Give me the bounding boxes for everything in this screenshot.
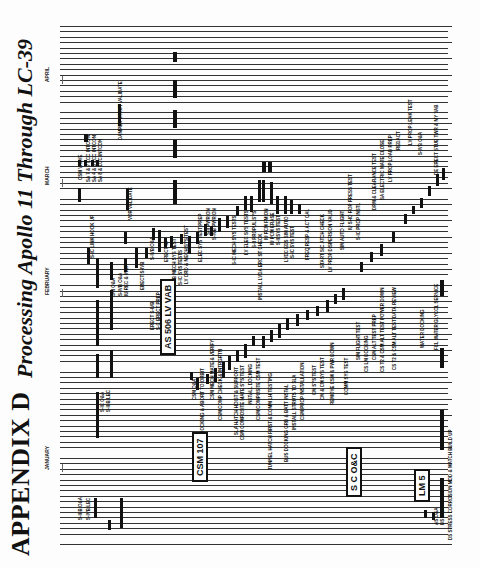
task-label: CM SYS TEST bbox=[312, 365, 317, 395]
task-label: ELEC SYS TEST PREP bbox=[198, 213, 203, 262]
task-bar bbox=[173, 110, 177, 128]
task-label: CS T2 & CSM ALT TEST POWER DOWN bbox=[380, 288, 385, 373]
task-bar bbox=[392, 232, 395, 242]
task-label: CSM PROP INSTALLATION bbox=[300, 362, 305, 420]
grid-line bbox=[60, 453, 448, 454]
grid-line bbox=[60, 534, 448, 535]
task-bar bbox=[96, 300, 99, 346]
grid-line bbox=[60, 307, 448, 308]
grid-line bbox=[60, 388, 448, 389]
month-tick bbox=[62, 464, 63, 472]
task-bar bbox=[244, 344, 247, 358]
task-label: S-IC O&A bbox=[100, 392, 105, 412]
task-label: S-II SYS TEST bbox=[276, 215, 281, 245]
task-label: S-IVB O&A bbox=[118, 273, 123, 296]
grid-line bbox=[60, 480, 452, 481]
task-label: CS LM DOCKING bbox=[364, 336, 369, 373]
month-tick bbox=[62, 179, 63, 187]
task-label: WATER DOCKING bbox=[420, 310, 425, 348]
task-label: SA 7 & 7 LCC INTCON bbox=[86, 135, 91, 182]
task-label: LV PROP LEAK TEST bbox=[408, 99, 413, 145]
task-label: DS STRESS CORROSION MOD & MATCH BUILD UP bbox=[448, 430, 453, 540]
task-label: S-II-B O&A bbox=[78, 497, 83, 520]
task-label: LVDC EDS SIM AUTO bbox=[284, 217, 289, 262]
task-bar bbox=[298, 204, 301, 214]
task-label: S-II PROPUL SYS bbox=[252, 211, 257, 248]
task-label: CSM VALVE bbox=[78, 154, 83, 180]
task-bar bbox=[158, 230, 161, 252]
task-bar bbox=[278, 324, 281, 338]
grid-line bbox=[60, 474, 448, 475]
task-label: SLA HATCH HOIST & SUPPORT bbox=[234, 367, 239, 435]
grid-line bbox=[60, 58, 452, 59]
task-label: S-II-B LEC bbox=[106, 390, 111, 412]
task-label: FREQ RESP & ACT CAL bbox=[305, 209, 310, 260]
grid-line bbox=[60, 539, 448, 540]
task-bar bbox=[124, 232, 127, 244]
month-tick bbox=[62, 289, 63, 297]
grid-line bbox=[60, 64, 448, 65]
grid-line bbox=[60, 26, 452, 27]
month-label: FEBRUARY bbox=[44, 267, 50, 295]
task-bar bbox=[436, 174, 439, 186]
task-label: S-IC MECH SYS TESTS bbox=[232, 215, 237, 265]
task-bar bbox=[276, 196, 279, 214]
task-label: SA 8 & LCC INTCON bbox=[98, 139, 103, 182]
task-bar bbox=[316, 306, 319, 316]
task-bar bbox=[440, 410, 444, 450]
task-label: CSM MECH MATE & VERIFY bbox=[210, 340, 215, 400]
task-bar bbox=[342, 288, 345, 300]
grid-line bbox=[60, 42, 452, 43]
task-bar bbox=[94, 498, 97, 518]
task-label: S-IVB LEC bbox=[86, 498, 91, 520]
grid-line bbox=[60, 264, 448, 265]
task-label: LV ELEC SYS TESTS bbox=[244, 210, 249, 255]
task-label: S-IC SYS TEST bbox=[290, 226, 295, 258]
grid-line bbox=[60, 69, 448, 70]
task-bar bbox=[173, 140, 177, 158]
grid-line bbox=[60, 188, 452, 189]
task-bar bbox=[78, 188, 81, 202]
task-label: AS O&A bbox=[434, 507, 439, 525]
task-bar bbox=[440, 348, 444, 368]
grid-line bbox=[60, 172, 452, 173]
task-bar bbox=[252, 336, 255, 346]
task-label: COMM SYS TEST bbox=[344, 358, 349, 395]
grid-line bbox=[60, 490, 448, 491]
grid-line bbox=[60, 523, 448, 524]
task-bar bbox=[380, 244, 383, 256]
grid-line bbox=[60, 355, 448, 356]
task-bar bbox=[145, 248, 148, 258]
task-bar bbox=[180, 234, 183, 244]
task-bar bbox=[360, 262, 363, 272]
task-bar bbox=[206, 374, 209, 384]
grid-line bbox=[60, 404, 448, 405]
task-bar bbox=[110, 290, 113, 330]
task-label: S-IVB O&A bbox=[150, 237, 155, 260]
task-bar bbox=[258, 180, 261, 202]
task-bar bbox=[404, 214, 407, 224]
month-label: JANUARY bbox=[44, 446, 50, 470]
task-bar bbox=[250, 196, 253, 212]
task-bar bbox=[173, 80, 177, 98]
task-bar bbox=[370, 252, 373, 262]
task-bar bbox=[173, 180, 177, 204]
task-label: IU SHO ROP PRESS TEST bbox=[348, 174, 353, 230]
grid-line bbox=[60, 517, 448, 518]
group-label-box: LM 5 bbox=[414, 469, 430, 502]
task-label: CM & CM SYS TEST bbox=[320, 357, 325, 400]
grid-line bbox=[60, 485, 448, 486]
grid-line bbox=[60, 53, 448, 54]
task-bar bbox=[135, 248, 138, 268]
grid-line bbox=[60, 269, 452, 270]
task-bar bbox=[96, 392, 99, 438]
task-bar bbox=[262, 162, 266, 172]
task-label: DS O&A bbox=[440, 507, 445, 525]
task-label: S-II PWR ON bbox=[206, 208, 211, 235]
grid-line bbox=[60, 75, 452, 76]
grid-line bbox=[60, 409, 448, 410]
grid-line bbox=[60, 496, 452, 497]
grid-line bbox=[60, 258, 448, 259]
task-label: ERECT S-IVB bbox=[140, 261, 145, 290]
task-bar bbox=[96, 354, 99, 378]
